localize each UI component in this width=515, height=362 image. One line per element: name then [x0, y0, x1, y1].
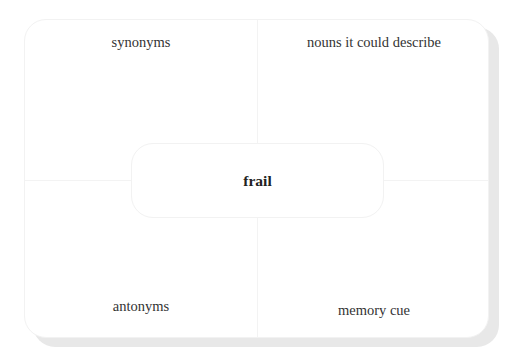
center-word-box: frail	[131, 143, 384, 218]
center-word: frail	[243, 172, 271, 190]
quadrant-antonyms-label: antonyms	[25, 298, 257, 315]
quadrant-memory-cue-label: memory cue	[258, 302, 490, 319]
word-map-card: synonyms nouns it could describe antonym…	[24, 19, 489, 338]
quadrant-synonyms-label: synonyms	[25, 34, 257, 51]
quadrant-nouns-label: nouns it could describe	[258, 34, 490, 51]
